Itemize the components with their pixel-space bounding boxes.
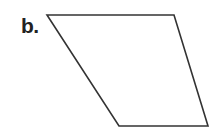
parallelogram-diagram <box>0 0 221 130</box>
parallelogram-shape <box>47 15 208 126</box>
figure-canvas: b. <box>0 0 221 130</box>
